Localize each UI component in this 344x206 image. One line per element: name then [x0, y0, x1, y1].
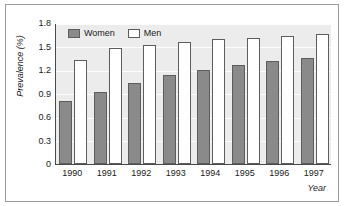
chart-legend: WomenMen [68, 29, 161, 38]
bar-men-1994 [212, 39, 225, 164]
x-tick-label: 1992 [124, 168, 159, 179]
bar-men-1993 [178, 42, 191, 164]
legend-swatch-icon [128, 29, 140, 38]
bar-women-1993 [163, 75, 176, 164]
bar-women-1997 [301, 58, 314, 164]
legend-entry-men[interactable]: Men [128, 29, 162, 38]
bar-women-1991 [94, 92, 107, 164]
bar-group [56, 24, 91, 164]
bar-women-1995 [232, 65, 245, 164]
plot-wrapper [55, 24, 331, 165]
chart-figure: Prevalence (%) 00.30.60.91.21.51.8 19901… [0, 0, 344, 206]
bar-group [91, 24, 126, 164]
bar-men-1997 [316, 34, 329, 164]
x-axis-label: Year [307, 183, 326, 193]
bar-group [229, 24, 264, 164]
bar-men-1990 [74, 60, 87, 164]
legend-entry-women[interactable]: Women [68, 29, 115, 38]
bar-men-1992 [143, 45, 156, 164]
y-tick-label: 1.2 [38, 66, 51, 75]
y-tick-label: 1.5 [38, 43, 51, 52]
bar-women-1994 [197, 70, 210, 164]
y-tick-label: 0.6 [38, 113, 51, 122]
y-tick-label: 0.9 [38, 90, 51, 99]
bar-group [298, 24, 333, 164]
bars-layer [56, 24, 331, 164]
x-tick-label: 1996 [262, 168, 297, 179]
y-tick-label: 0.3 [38, 137, 51, 146]
x-tick-label: 1991 [90, 168, 125, 179]
bar-group [194, 24, 229, 164]
x-tick-label: 1994 [193, 168, 228, 179]
plot-area [55, 24, 331, 165]
x-tick-label: 1995 [228, 168, 263, 179]
x-axis-ticks: 19901991199219931994199519961997 [55, 168, 331, 181]
y-tick-label: 1.8 [38, 19, 51, 28]
y-tick-label: 0 [46, 160, 51, 169]
x-tick-label: 1993 [159, 168, 194, 179]
y-axis-ticks: 00.30.60.91.21.51.8 [20, 24, 51, 165]
x-tick-label: 1997 [297, 168, 332, 179]
x-tick-label: 1990 [55, 168, 90, 179]
figure-frame: Prevalence (%) 00.30.60.91.21.51.8 19901… [5, 4, 339, 202]
legend-swatch-icon [68, 29, 80, 38]
legend-label: Women [84, 29, 115, 38]
bar-group [160, 24, 195, 164]
bar-women-1990 [59, 101, 72, 164]
bar-women-1992 [128, 83, 141, 164]
bar-group [125, 24, 160, 164]
bar-men-1996 [281, 36, 294, 164]
bar-men-1995 [247, 38, 260, 164]
legend-label: Men [144, 29, 162, 38]
bar-group [263, 24, 298, 164]
bar-men-1991 [109, 48, 122, 164]
bar-women-1996 [266, 61, 279, 164]
